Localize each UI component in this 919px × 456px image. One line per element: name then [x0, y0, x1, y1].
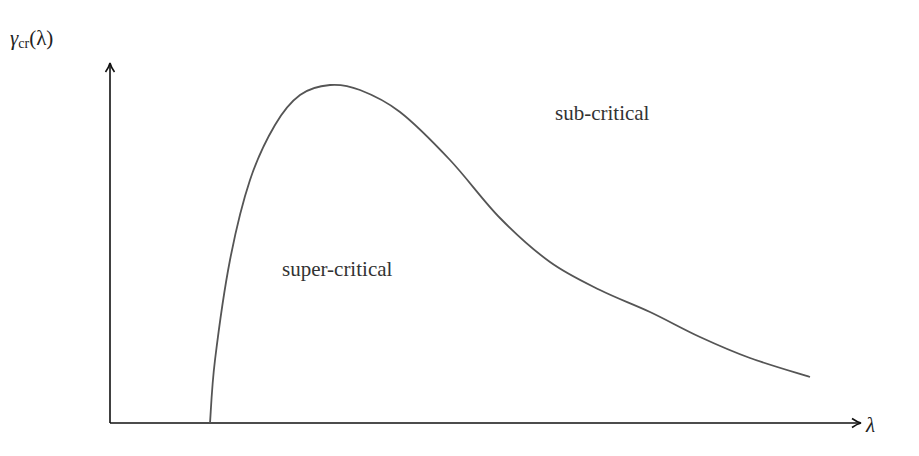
chart-canvas — [0, 0, 919, 456]
y-arg: (λ) — [29, 26, 53, 50]
sub-critical-label: sub-critical — [555, 101, 649, 126]
super-critical-label: super-critical — [282, 257, 392, 282]
y-subscript: cr — [18, 36, 29, 51]
critical-curve — [210, 85, 810, 423]
x-axis-label: λ — [866, 413, 875, 438]
y-axis-label: γcr(λ) — [10, 26, 53, 52]
